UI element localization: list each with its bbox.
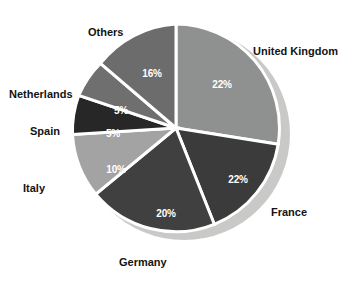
category-label-others: Others	[88, 26, 123, 38]
slice-value-others: 16%	[142, 68, 161, 79]
category-label-france: France	[271, 206, 307, 218]
pie-slice-group	[72, 24, 279, 232]
slice-value-united-kingdom: 22%	[212, 79, 231, 90]
category-label-italy: Italy	[23, 182, 45, 194]
slice-value-france: 22%	[228, 174, 247, 185]
category-label-spain: Spain	[30, 125, 60, 137]
category-label-germany: Germany	[119, 256, 167, 268]
pie-chart: 22% 22% 20% 10% 5% 5% 16% United Kingdom…	[0, 0, 345, 284]
slice-value-italy: 10%	[106, 164, 125, 175]
slice-value-germany: 20%	[156, 208, 175, 219]
slice-value-netherlands: 5%	[114, 105, 128, 116]
pie-slices	[70, 22, 282, 234]
category-label-netherlands: Netherlands	[9, 88, 73, 100]
slice-value-spain: 5%	[106, 128, 120, 139]
category-label-united-kingdom: United Kingdom	[253, 45, 338, 57]
